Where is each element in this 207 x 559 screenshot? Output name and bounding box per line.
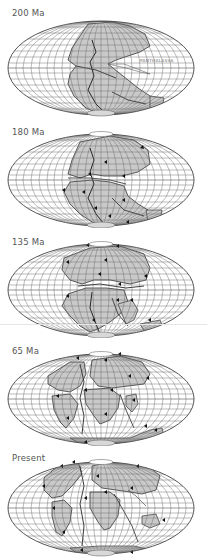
scan-artifact-line — [0, 324, 207, 325]
panel-135-ma: 135 Ma — [0, 228, 207, 338]
globe-map-65-ma — [0, 338, 207, 446]
ocean-label-panthalassa: PANTHALASSA — [140, 58, 174, 63]
globe-map-180-ma — [0, 118, 207, 228]
panel-180-ma: 180 Ma — [0, 118, 207, 228]
panel-present: Present — [0, 446, 207, 559]
panel-65-ma: 65 Ma — [0, 338, 207, 446]
panel-200-ma: 200 Ma — [0, 0, 207, 118]
globe-map-200-ma: PANTHALASSA — [0, 0, 207, 118]
globe-map-135-ma — [0, 228, 207, 338]
globe-map-present — [0, 446, 207, 559]
